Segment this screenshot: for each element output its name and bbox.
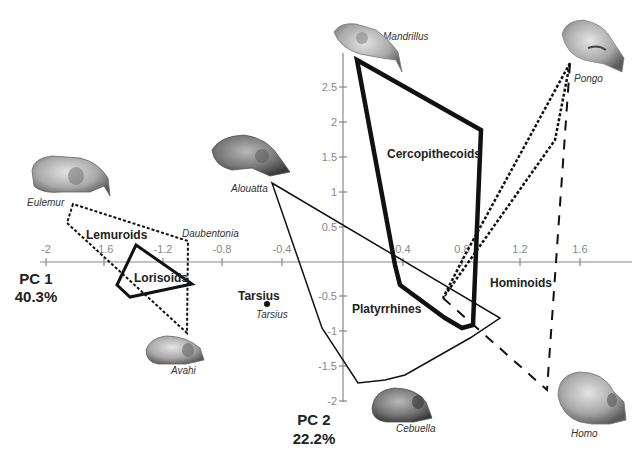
y-tick: -1	[327, 325, 337, 337]
x-tick: 1.2	[512, 243, 527, 255]
homo-skull-image	[558, 372, 626, 424]
pca-chart: -2 -1.6 -1.2 -0.8 -0.4 0.4 0.8 1.2 1.6 2…	[0, 0, 644, 456]
x-tick: -0.8	[213, 243, 232, 255]
taxon-label-homo: Homo	[571, 428, 598, 439]
group-label-cercopithecoids: Cercopithecoids	[387, 147, 481, 161]
y-tick: 1.5	[322, 151, 337, 163]
taxon-label-cebuella: Cebuella	[396, 423, 436, 434]
taxon-label-daubentonia: Daubentonia	[182, 228, 239, 239]
hominoids-homo-link	[443, 63, 570, 390]
pongo-skull-image	[562, 20, 624, 72]
group-label-lorisoids: Lorisoids	[134, 271, 188, 285]
x-tick: -1.6	[95, 243, 114, 255]
avahi-skull-image	[146, 336, 204, 364]
pc2-variance: 22.2%	[293, 430, 336, 447]
taxon-label-alouatta: Alouatta	[230, 183, 268, 194]
y-tick: 0.5	[322, 221, 337, 233]
group-label-lemuroids: Lemuroids	[86, 228, 148, 242]
taxon-label-eulemur: Eulemur	[27, 197, 65, 208]
x-tick: -0.4	[273, 243, 292, 255]
y-tick: -2	[327, 395, 337, 407]
y-tick: 1	[331, 186, 337, 198]
taxon-label-mandrillus: Mandrillus	[383, 31, 429, 42]
pc1-label: PC 1	[19, 270, 52, 287]
y-axis: 2.5 2 1.5 1 0.5 -0.5 -1 -1.5 -2	[318, 53, 347, 407]
pc2-label: PC 2	[297, 411, 330, 428]
taxon-label-avahi: Avahi	[170, 365, 197, 376]
taxon-label-pongo: Pongo	[574, 73, 603, 84]
hominoids-hull	[443, 63, 570, 298]
y-tick: 2	[331, 116, 337, 128]
x-tick: 1.6	[572, 243, 587, 255]
y-tick: -0.5	[318, 290, 337, 302]
group-label-tarsius: Tarsius	[238, 289, 280, 303]
pc1-variance: 40.3%	[15, 288, 58, 305]
y-tick: -1.5	[318, 360, 337, 372]
cercopithecoids-hull	[357, 60, 481, 328]
alouatta-skull-image	[212, 135, 290, 176]
y-tick: 2.5	[322, 81, 337, 93]
eulemur-skull-image	[32, 156, 110, 196]
cebuella-skull-image	[372, 388, 432, 422]
group-label-platyrrhines: Platyrrhines	[352, 302, 422, 316]
x-tick: -1.2	[154, 243, 173, 255]
x-tick: 0.4	[395, 243, 410, 255]
taxon-label-tarsius: Tarsius	[256, 309, 288, 320]
x-tick: -2	[41, 243, 51, 255]
group-label-hominoids: Hominoids	[490, 276, 552, 290]
